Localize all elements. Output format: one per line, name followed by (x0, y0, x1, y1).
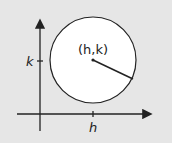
x-tick-label: h (89, 120, 97, 135)
circle-diagram: (h,k) h k (0, 0, 172, 143)
y-tick-label: k (26, 54, 34, 69)
center-point (91, 58, 94, 61)
center-label: (h,k) (78, 42, 108, 57)
